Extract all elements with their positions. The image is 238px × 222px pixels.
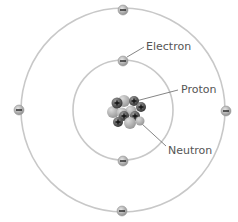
electron-label: Electron xyxy=(146,40,191,53)
neutron-leader-line xyxy=(142,124,166,146)
electron-inner-bottom xyxy=(118,156,128,166)
electron-outer-bottom xyxy=(117,206,127,216)
neutron-label: Neutron xyxy=(168,144,212,157)
electron-outer-left xyxy=(14,105,24,115)
electron-inner-top xyxy=(118,56,128,66)
atom-diagram xyxy=(0,0,238,222)
neutron xyxy=(124,117,136,129)
proton-label: Proton xyxy=(181,83,216,96)
electron-outer-top xyxy=(118,5,128,15)
neutron xyxy=(136,117,145,126)
electron-leader-line xyxy=(127,47,144,57)
electron-outer-right xyxy=(221,106,231,116)
